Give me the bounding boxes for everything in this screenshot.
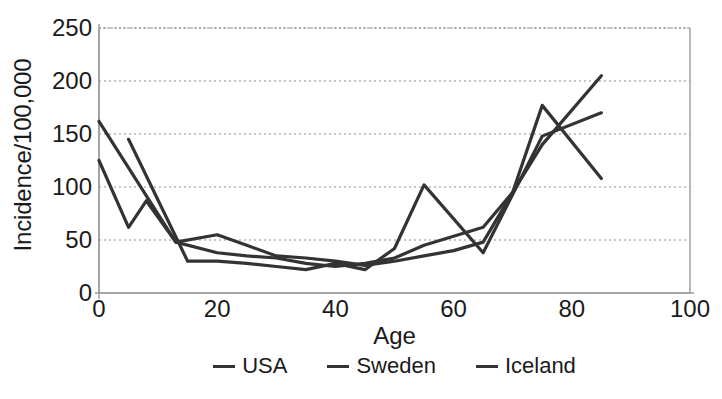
x-tick-label: 40	[300, 297, 370, 321]
x-tick-label: 0	[64, 297, 134, 321]
legend-label: Sweden	[356, 355, 436, 377]
axis-frame	[99, 28, 690, 293]
x-tick-label: 20	[182, 297, 252, 321]
legend-item-usa[interactable]: USA	[213, 355, 287, 377]
legend-label: USA	[242, 355, 287, 377]
chart-legend: USASwedenIceland	[99, 355, 690, 377]
x-tick-label: 60	[419, 297, 489, 321]
legend-line-icon	[476, 365, 498, 368]
legend-item-iceland[interactable]: Iceland	[476, 355, 576, 377]
x-tick-label: 80	[537, 297, 607, 321]
legend-line-icon	[327, 365, 349, 368]
legend-item-sweden[interactable]: Sweden	[327, 355, 436, 377]
data-series-lines	[99, 76, 601, 270]
gridlines	[99, 28, 690, 240]
legend-line-icon	[213, 365, 235, 368]
x-tick-label: 100	[655, 297, 722, 321]
x-axis-title: Age	[99, 322, 690, 350]
legend-label: Iceland	[505, 355, 576, 377]
series-line-sweden	[99, 105, 601, 265]
chart-figure: Incidence/100,000 050100150200250 020406…	[0, 0, 722, 399]
